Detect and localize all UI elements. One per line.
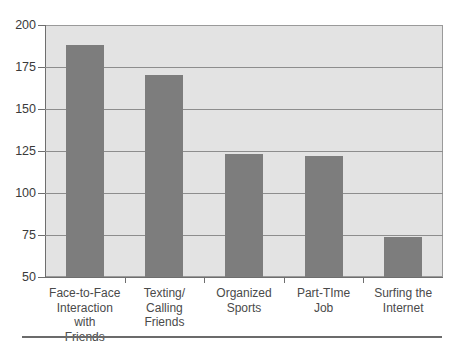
x-axis-category-label: Part-TIme Job	[284, 286, 364, 315]
y-axis-tick-label: 50	[2, 271, 36, 284]
y-axis-tick-label: 200	[2, 19, 36, 32]
y-axis-tick-label: 125	[2, 145, 36, 158]
x-axis-tick-mark	[363, 277, 364, 283]
gridline	[45, 151, 443, 152]
x-axis-category-label: Organized Sports	[204, 286, 284, 315]
y-axis-tick-label: 75	[2, 229, 36, 242]
x-axis-line	[45, 277, 443, 278]
bar	[145, 75, 183, 277]
gridline	[45, 109, 443, 110]
y-axis-tick-mark	[38, 109, 45, 110]
x-axis-tick-mark	[284, 277, 285, 283]
y-axis-tick-label: 175	[2, 61, 36, 74]
y-axis-tick-mark	[38, 67, 45, 68]
y-axis-tick-mark	[38, 151, 45, 152]
y-axis-tick-mark	[38, 235, 45, 236]
y-axis-tick-label: 100	[2, 187, 36, 200]
bar	[66, 45, 104, 277]
bar	[305, 156, 343, 277]
x-axis-category-label: Texting/ Calling Friends	[125, 286, 205, 330]
gridline	[45, 67, 443, 68]
bar	[225, 154, 263, 277]
x-axis-tick-mark	[125, 277, 126, 283]
y-axis-tick-mark	[38, 193, 45, 194]
y-axis-tick-label: 150	[2, 103, 36, 116]
x-axis-category-label: Surfing the Internet	[363, 286, 443, 315]
bar	[384, 237, 422, 277]
bar-chart-figure: 2001751501251007550 Face-to-Face Interac…	[0, 0, 463, 348]
y-axis-tick-labels: 2001751501251007550	[0, 0, 36, 348]
x-axis-tick-mark	[204, 277, 205, 283]
y-axis-tick-mark	[38, 277, 45, 278]
bottom-rule	[22, 336, 442, 338]
y-axis-tick-mark	[38, 25, 45, 26]
